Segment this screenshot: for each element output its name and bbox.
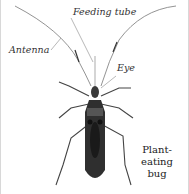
- diagram-title: Plant-eating bug: [127, 144, 187, 180]
- bug-diagram: Feeding tube Antenna Eye Plant-eating bu…: [0, 0, 189, 194]
- antenna-label: Antenna: [9, 44, 49, 55]
- feeding-tube-label: Feeding tube: [73, 6, 136, 17]
- title-line-2: bug: [127, 168, 187, 180]
- title-line-1: Plant-eating: [127, 144, 187, 168]
- eye-label: Eye: [117, 62, 135, 73]
